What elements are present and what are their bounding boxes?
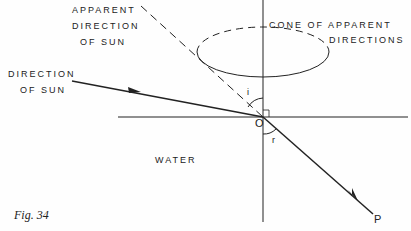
sun-ray-arrow-icon xyxy=(128,87,141,93)
apparent-direction-label-1: APPARENT xyxy=(72,3,136,18)
refracted-ray-line xyxy=(263,117,373,214)
refraction-diagram: APPARENT DIRECTION OF SUN DIRECTION OF S… xyxy=(0,0,411,231)
cone-label-2: DIRECTIONS xyxy=(329,33,405,48)
direction-of-sun-label-1: DIRECTION xyxy=(8,67,76,82)
angle-r-label: r xyxy=(272,135,275,145)
angle-r-arc xyxy=(263,129,276,134)
right-angle-marker xyxy=(263,110,269,117)
water-label: WATER xyxy=(155,153,197,168)
direction-of-sun-label-2: OF SUN xyxy=(20,83,66,98)
point-p-label: P xyxy=(374,213,381,225)
angle-i-label: i xyxy=(247,87,249,97)
apparent-direction-label-3: OF SUN xyxy=(80,35,126,50)
figure-caption: Fig. 34 xyxy=(14,208,49,223)
apparent-direction-label-2: DIRECTION xyxy=(72,19,140,34)
cone-label-1: CONE OF APPARENT xyxy=(269,18,392,33)
origin-label: O xyxy=(255,117,264,129)
apparent-direction-line xyxy=(141,6,263,117)
sun-ray-line xyxy=(72,81,263,117)
refracted-ray-arrow-icon xyxy=(348,188,358,201)
